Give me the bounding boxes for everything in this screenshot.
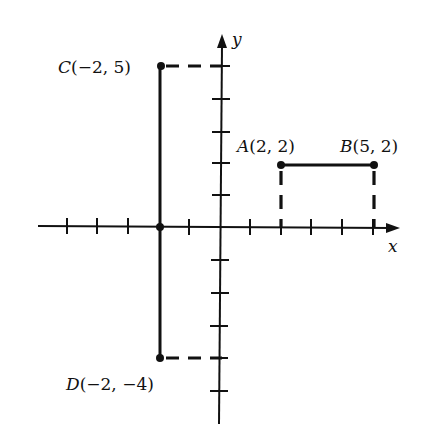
x-axis: [38, 226, 392, 228]
coordinate-plane-diagram: y x C(−2, 5) A(2, 2) B(5, 2) D(−2, −4): [0, 0, 432, 439]
point-b: [370, 161, 378, 169]
point-c: [157, 62, 165, 70]
x-axis-label: x: [388, 236, 398, 256]
label-point-d: D(−2, −4): [65, 374, 154, 394]
label-point-a: A(2, 2): [235, 136, 295, 156]
points: [156, 62, 378, 362]
point-d: [156, 354, 164, 362]
x-axis-arrow-icon: [386, 223, 400, 233]
point-a: [277, 161, 285, 169]
dashed-projections: [166, 66, 374, 358]
y-axis-arrow-icon: [217, 34, 227, 48]
label-point-b: B(5, 2): [339, 136, 398, 156]
point-intersection: [156, 223, 164, 231]
y-axis-label: y: [231, 29, 242, 49]
y-axis: [219, 46, 222, 424]
label-point-c: C(−2, 5): [58, 57, 131, 77]
